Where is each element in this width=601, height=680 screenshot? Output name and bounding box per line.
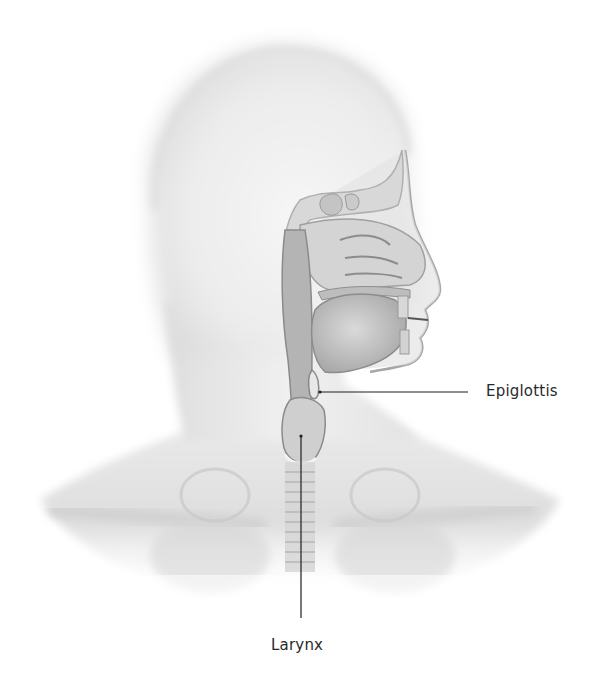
anatomy-illustration [0, 0, 601, 680]
larynx-structure [282, 398, 325, 464]
larynx-label: Larynx [271, 636, 323, 654]
epiglottis-label: Epiglottis [486, 382, 558, 400]
trachea [285, 462, 315, 572]
epiglottis-anchor-dot [318, 390, 321, 393]
larynx-anchor-dot [299, 434, 302, 437]
